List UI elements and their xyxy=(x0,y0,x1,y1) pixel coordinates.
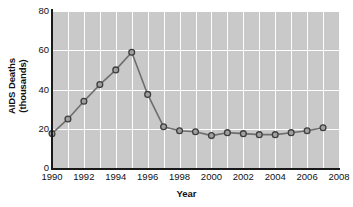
x-axis-tick-label: 2006 xyxy=(290,171,324,182)
x-axis-tick-label: 1990 xyxy=(35,171,69,182)
aids-deaths-line-chart: AIDS Deaths (thousands) 020406080 199019… xyxy=(0,0,353,207)
x-axis-tick-label: 1992 xyxy=(67,171,101,182)
x-axis-tick-labels: 1990199219941996199820002002200420062008 xyxy=(0,0,353,207)
x-axis-tick-label: 2004 xyxy=(258,171,292,182)
x-axis-tick-label: 1998 xyxy=(163,171,197,182)
x-axis-tick-label: 1994 xyxy=(99,171,133,182)
x-axis-title: Year xyxy=(0,188,353,199)
x-axis-tick-label: 2008 xyxy=(322,171,353,182)
x-axis-tick-label: 1996 xyxy=(131,171,165,182)
x-axis-tick-label: 2000 xyxy=(194,171,228,182)
x-axis-tick-label: 2002 xyxy=(226,171,260,182)
